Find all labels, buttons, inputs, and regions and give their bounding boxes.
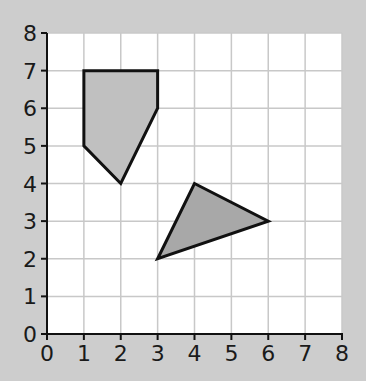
- coordinate-grid-chart: 012345678012345678: [0, 0, 366, 381]
- x-tick-label: 2: [114, 341, 128, 366]
- x-tick-label: 5: [224, 341, 238, 366]
- x-tick-label: 3: [151, 341, 165, 366]
- x-tick-label: 1: [77, 341, 91, 366]
- x-tick-label: 0: [40, 341, 54, 366]
- y-tick-label: 6: [23, 96, 37, 121]
- x-tick-label: 4: [188, 341, 202, 366]
- y-tick-label: 0: [23, 322, 37, 347]
- y-tick-label: 3: [23, 209, 37, 234]
- y-tick-label: 5: [23, 134, 37, 159]
- x-tick-label: 8: [335, 341, 349, 366]
- x-tick-label: 7: [298, 341, 312, 366]
- y-tick-label: 2: [23, 247, 37, 272]
- y-tick-label: 1: [23, 284, 37, 309]
- y-tick-label: 4: [23, 172, 37, 197]
- y-tick-label: 7: [23, 59, 37, 84]
- x-tick-label: 6: [261, 341, 275, 366]
- y-tick-label: 8: [23, 21, 37, 46]
